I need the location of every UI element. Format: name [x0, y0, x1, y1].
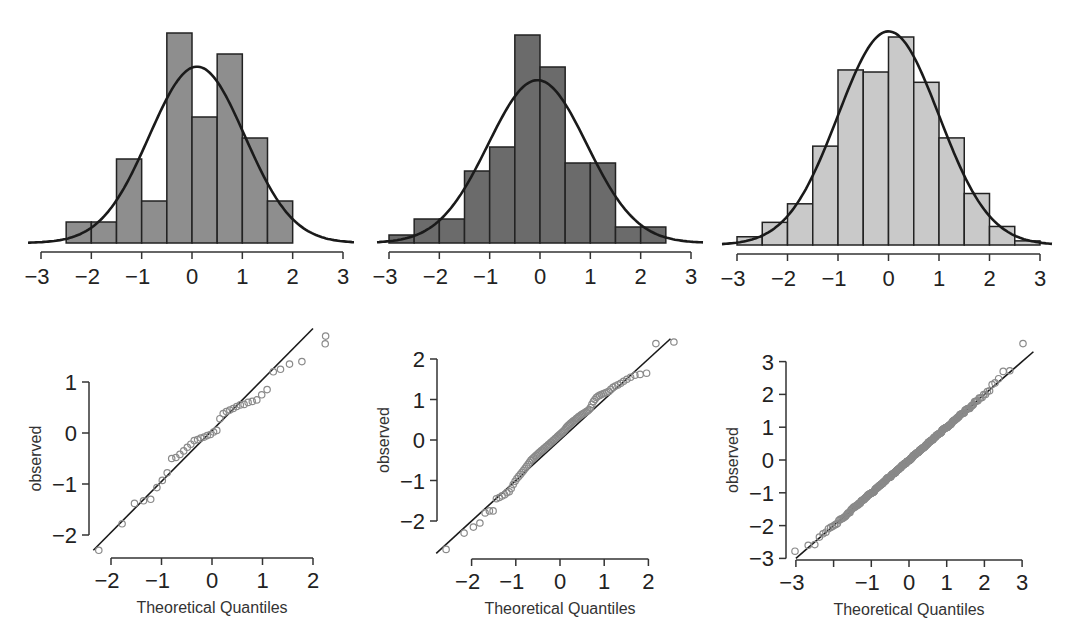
- histogram-bar: [117, 159, 142, 243]
- tick-label: 2: [762, 382, 774, 407]
- qq-point: [1000, 368, 1006, 374]
- tick-label: −3: [24, 264, 49, 289]
- qq-plot-3: −3−2−10123observed−3−10123Theoretical Qu…: [724, 340, 1033, 618]
- tick-label: −2: [94, 568, 119, 593]
- y-axis: −2−101observed: [27, 370, 89, 548]
- qq-point: [470, 524, 476, 530]
- qq-reference-line: [436, 339, 670, 554]
- histogram-bar: [939, 138, 964, 245]
- x-axis: −3−2−10123: [720, 254, 1046, 291]
- tick-label: −3: [749, 546, 774, 571]
- histogram-bar: [565, 163, 590, 243]
- qq-point: [322, 333, 328, 339]
- x-axis: −3−2−10123: [372, 252, 697, 289]
- y-axis-title: observed: [27, 426, 44, 492]
- tick-label: −1: [145, 568, 170, 593]
- tick-label: 0: [206, 568, 218, 593]
- tick-label: −1: [749, 481, 774, 506]
- tick-label: −1: [125, 264, 150, 289]
- tick-label: 3: [1016, 570, 1028, 595]
- histogram-bar: [889, 37, 914, 245]
- qq-point: [995, 376, 1001, 382]
- tick-label: 0: [554, 569, 566, 594]
- histogram-bar: [490, 147, 515, 243]
- qq-points: [443, 339, 677, 553]
- tick-label: −1: [473, 264, 498, 289]
- tick-label: −2: [749, 514, 774, 539]
- qq-point: [792, 548, 798, 554]
- x-axis-title: Theoretical Quantiles: [484, 600, 635, 617]
- qq-point: [443, 546, 449, 552]
- tick-label: −1: [52, 472, 77, 497]
- qq-point: [653, 340, 659, 346]
- histogram-bar: [217, 54, 242, 243]
- qq-point: [96, 547, 102, 553]
- tick-label: −3: [372, 264, 397, 289]
- tick-label: 0: [903, 570, 915, 595]
- qq-point: [264, 386, 270, 392]
- tick-label: 3: [685, 264, 697, 289]
- x-axis: −2−1012Theoretical Quantiles: [455, 559, 654, 617]
- tick-label: 1: [941, 570, 953, 595]
- tick-label: 1: [762, 415, 774, 440]
- tick-label: −2: [771, 266, 796, 291]
- qq-point: [181, 448, 187, 454]
- histogram-bar: [540, 67, 565, 243]
- histogram-3: −3−2−10123: [720, 31, 1052, 291]
- tick-label: −2: [423, 264, 448, 289]
- histogram-bars: [389, 35, 666, 243]
- x-axis-title: Theoretical Quantiles: [136, 599, 287, 616]
- histogram-bar: [242, 138, 267, 243]
- tick-label: 3: [1034, 266, 1046, 291]
- tick-label: −1: [821, 266, 846, 291]
- tick-label: −1: [499, 569, 524, 594]
- tick-label: 0: [65, 421, 77, 446]
- histogram-bar: [268, 201, 293, 243]
- qq-point: [148, 496, 154, 502]
- tick-label: 0: [882, 266, 894, 291]
- tick-label: −2: [400, 509, 425, 534]
- histogram-bar: [66, 222, 91, 243]
- tick-label: −2: [75, 264, 100, 289]
- histogram-bar: [439, 219, 464, 243]
- tick-label: −3: [779, 570, 804, 595]
- tick-label: 2: [635, 264, 647, 289]
- x-axis-title: Theoretical Quantiles: [833, 601, 984, 618]
- tick-label: −3: [720, 266, 745, 291]
- qq-point: [299, 358, 305, 364]
- x-axis: −3−10123Theoretical Quantiles: [779, 560, 1028, 618]
- tick-label: −2: [455, 569, 480, 594]
- qq-points: [792, 340, 1026, 554]
- y-axis-title: observed: [375, 407, 392, 473]
- figure: −3−2−10123 −3−2−10123 −3−2−10123 −2−101o…: [0, 0, 1067, 644]
- tick-label: −2: [52, 523, 77, 548]
- tick-label: 2: [978, 570, 990, 595]
- qq-point: [461, 530, 467, 536]
- tick-label: 1: [65, 370, 77, 395]
- tick-label: 2: [642, 569, 654, 594]
- histogram-bar: [838, 70, 863, 245]
- tick-label: −1: [400, 469, 425, 494]
- figure-canvas: −3−2−10123 −3−2−10123 −3−2−10123 −2−101o…: [0, 0, 1067, 644]
- tick-label: 0: [413, 428, 425, 453]
- y-axis: −3−2−10123observed: [724, 350, 786, 572]
- y-axis: −2−1012observed: [375, 347, 437, 534]
- histogram-bar: [192, 117, 217, 243]
- qq-point: [643, 370, 649, 376]
- histogram-bar: [515, 35, 540, 243]
- qq-point: [1020, 340, 1026, 346]
- histogram-bar: [813, 146, 838, 245]
- tick-label: 2: [983, 266, 995, 291]
- histogram-bar: [142, 201, 167, 243]
- qq-plot-2: −2−1012observed−2−1012Theoretical Quanti…: [375, 339, 677, 617]
- qq-point: [277, 366, 283, 372]
- tick-label: 1: [256, 568, 268, 593]
- histogram-bar: [863, 72, 888, 245]
- qq-point: [671, 339, 677, 345]
- qq-point: [322, 341, 328, 347]
- histogram-2: −3−2−10123: [372, 35, 703, 289]
- histogram-bars: [66, 33, 293, 243]
- tick-label: 1: [413, 388, 425, 413]
- qq-point: [286, 361, 292, 367]
- x-axis: −2−1012Theoretical Quantiles: [94, 558, 319, 616]
